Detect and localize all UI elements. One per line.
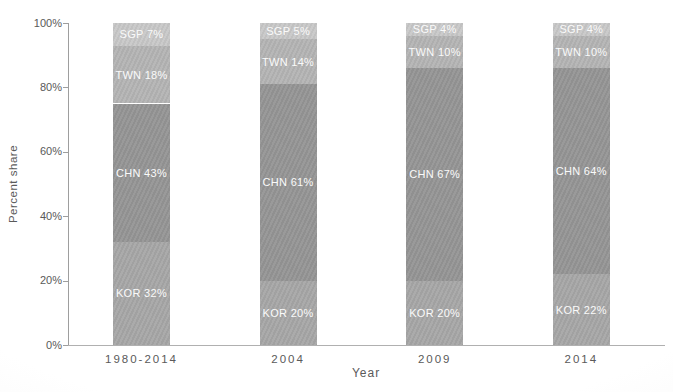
bar-segment-kor: KOR 20% xyxy=(260,281,317,345)
y-tick-label: 40% xyxy=(10,211,62,222)
bar-segment-kor: KOR 20% xyxy=(406,281,463,345)
x-axis-line xyxy=(68,345,665,346)
bar-segment-kor: KOR 22% xyxy=(553,274,610,345)
bar-segment-label: TWN 10% xyxy=(409,46,461,58)
y-tick-mark xyxy=(63,23,68,24)
bar-segment-twn: TWN 18% xyxy=(113,46,170,104)
bar-segment-twn: TWN 10% xyxy=(553,36,610,68)
bar-segment-sgp: SGP 4% xyxy=(406,23,463,36)
x-axis-title: Year xyxy=(316,366,416,380)
bar-segment-sgp: SGP 4% xyxy=(553,23,610,36)
bar-segment-label: KOR 20% xyxy=(263,307,314,319)
bar-segment-sgp: SGP 7% xyxy=(113,23,170,46)
stacked-bar-chart-figure: Percent share 0%20%40%60%80%100% KOR 32%… xyxy=(0,0,673,392)
y-tick-mark xyxy=(63,87,68,88)
bar-segment-chn: CHN 64% xyxy=(553,68,610,274)
bar-segment-chn: CHN 61% xyxy=(260,84,317,280)
y-tick-label: 0% xyxy=(10,340,62,351)
bar-segment-label: SGP 4% xyxy=(559,23,603,35)
y-tick-label: 20% xyxy=(10,275,62,286)
bar-segment-twn: TWN 10% xyxy=(406,36,463,68)
bar-segment-label: KOR 22% xyxy=(556,304,607,316)
bar-segment-label: TWN 14% xyxy=(262,56,314,68)
y-tick-label: 80% xyxy=(10,82,62,93)
bar-segment-label: CHN 61% xyxy=(263,176,314,188)
x-tick-label: 2009 xyxy=(375,353,495,365)
x-tick-label: 1980-2014 xyxy=(82,353,202,365)
bar-segment-label: TWN 10% xyxy=(555,46,607,58)
bar-segment-chn: CHN 43% xyxy=(113,104,170,242)
y-tick-label: 100% xyxy=(10,18,62,29)
y-axis-title: Percent share xyxy=(7,109,19,259)
bar-segment-kor: KOR 32% xyxy=(113,242,170,345)
bar-segment-sgp: SGP 5% xyxy=(260,23,317,39)
x-tick-label: 2014 xyxy=(521,353,641,365)
bar-segment-label: SGP 7% xyxy=(120,28,164,40)
bar-segment-chn: CHN 67% xyxy=(406,68,463,282)
y-tick-mark xyxy=(63,216,68,217)
y-tick-label: 60% xyxy=(10,146,62,157)
bar-segment-label: SGP 4% xyxy=(413,23,457,35)
y-axis-line xyxy=(68,23,69,345)
bar-segment-label: KOR 32% xyxy=(116,287,167,299)
y-tick-mark xyxy=(63,152,68,153)
y-tick-mark xyxy=(63,345,68,346)
bar-segment-label: TWN 18% xyxy=(115,69,167,81)
bar-segment-label: CHN 67% xyxy=(409,168,460,180)
bar-segment-twn: TWN 14% xyxy=(260,39,317,84)
x-tick-label: 2004 xyxy=(228,353,348,365)
bar-segment-label: CHN 43% xyxy=(116,167,167,179)
bar-segment-label: KOR 20% xyxy=(409,307,460,319)
y-tick-mark xyxy=(63,281,68,282)
bar-segment-label: CHN 64% xyxy=(556,165,607,177)
bar-segment-label: SGP 5% xyxy=(266,25,310,37)
